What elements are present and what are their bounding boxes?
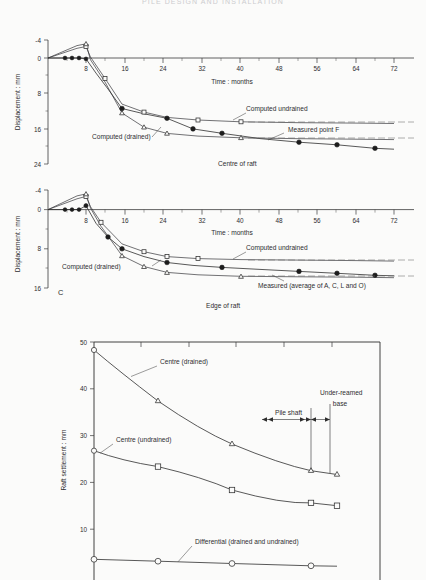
dim-leader-caps xyxy=(311,404,330,420)
marker-open-square xyxy=(239,120,243,124)
marker-filled-circle xyxy=(70,208,74,212)
y-ticks xyxy=(44,40,48,164)
y-axis-title: Displacement : mm xyxy=(14,215,22,272)
marker-open-square xyxy=(142,110,146,114)
arrow-left-icon xyxy=(325,417,330,422)
annotation-computed-undrained: Computed undrained xyxy=(246,244,308,252)
y-tick-16: 16 xyxy=(34,126,42,133)
y-tick-labels: -4 0 8 16 24 xyxy=(34,37,42,168)
marker-open-square xyxy=(142,250,146,254)
marker-open-circle xyxy=(91,556,97,562)
chart-edge-of-raft-svg: -4 0 8 16 8 16 24 32 40 48 56 64 72 Time… xyxy=(0,176,426,316)
leader-measured-point-f xyxy=(268,133,284,140)
y-tick-30: 30 xyxy=(80,432,88,439)
x-tick-56: 56 xyxy=(313,217,321,224)
x-ticks xyxy=(86,58,394,63)
arrow-left-icon xyxy=(262,417,267,422)
y-axis-title: Raft settlement : mm xyxy=(60,429,67,490)
marker-open-circle xyxy=(91,448,96,453)
marker-filled-circle xyxy=(70,56,74,60)
marker-filled-circle xyxy=(165,260,170,265)
annotations: Computed undrained Measured point F Comp… xyxy=(92,105,339,167)
x-tick-56: 56 xyxy=(313,65,321,72)
leader-centre-drained xyxy=(131,366,157,377)
x-tick-40: 40 xyxy=(236,217,244,224)
leader-centre-undrained xyxy=(100,444,113,453)
marker-filled-circle xyxy=(106,235,111,240)
marker-filled-circle xyxy=(63,208,67,212)
leader-differential xyxy=(178,546,192,562)
marker-filled-circle xyxy=(120,247,125,252)
leader-computed-undrained xyxy=(233,113,246,120)
marker-open-circle xyxy=(308,563,314,569)
figure-letter: C xyxy=(58,288,63,297)
y-ticks xyxy=(90,342,94,529)
arrow-right-icon xyxy=(311,417,316,422)
leader-computed-drained xyxy=(152,260,161,266)
x-tick-32: 32 xyxy=(198,217,206,224)
y-tick-0: 0 xyxy=(37,55,41,62)
series-centre-undrained-line xyxy=(94,451,337,506)
x-tick-24: 24 xyxy=(159,65,167,72)
chart-raft-settlement: 50 40 30 20 10 Raft settlement : mm xyxy=(0,330,426,580)
y-tick-m4: -4 xyxy=(35,187,41,194)
marker-filled-circle xyxy=(335,143,340,148)
marker-open-square xyxy=(165,255,169,259)
annotation-differential: Differential (drained and undrained) xyxy=(195,538,299,546)
arrow-left-icon xyxy=(268,417,273,422)
y-ticks xyxy=(44,190,48,288)
y-tick-8: 8 xyxy=(37,245,41,252)
marker-open-square xyxy=(99,220,103,224)
x-tick-48: 48 xyxy=(275,65,283,72)
annotation-measured-average: Measured (average of A, C, L and O) xyxy=(258,282,366,290)
annotation-centre-of-raft: Centre of raft xyxy=(218,160,257,167)
x-minor-ticks xyxy=(67,210,375,213)
marker-filled-circle xyxy=(120,106,125,111)
dimension-labels: Pile shaft Under-reamed base xyxy=(275,389,363,416)
marker-filled-circle xyxy=(63,56,67,60)
marker-open-triangle xyxy=(84,192,89,196)
x-tick-72: 72 xyxy=(390,65,398,72)
y-tick-24: 24 xyxy=(34,161,42,168)
axes-group xyxy=(44,190,414,288)
x-tick-16: 16 xyxy=(121,65,129,72)
annotation-centre-drained: Centre (drained) xyxy=(160,358,208,366)
annotation-pile-shaft: Pile shaft xyxy=(275,409,302,416)
series-markers xyxy=(91,347,340,568)
marker-filled-circle xyxy=(165,116,170,121)
arrow-right-icon xyxy=(306,417,311,422)
series-differential-line xyxy=(94,559,337,566)
annotation-measured-point-f: Measured point F xyxy=(288,126,339,134)
leader-computed-drained xyxy=(152,127,161,137)
top-ticks xyxy=(141,342,332,347)
marker-filled-circle xyxy=(373,273,378,278)
marker-filled-circle xyxy=(297,269,302,274)
annotation-computed-undrained: Computed undrained xyxy=(246,105,308,113)
marker-filled-circle xyxy=(84,204,88,208)
marker-open-square xyxy=(196,257,200,261)
marker-open-triangle xyxy=(120,254,125,258)
marker-filled-circle xyxy=(220,265,225,270)
marker-open-triangle xyxy=(142,125,147,129)
y-tick-m4: -4 xyxy=(35,37,41,44)
y-tick-labels: 50 40 30 20 10 xyxy=(80,339,88,533)
y-tick-50: 50 xyxy=(80,339,88,346)
marker-open-square xyxy=(155,464,160,469)
marker-filled-circle xyxy=(373,146,378,151)
marker-filled-circle xyxy=(335,271,340,276)
marker-open-circle xyxy=(229,561,235,567)
annotation-under-reamed: Under-reamed xyxy=(320,389,363,396)
arrow-right-icon xyxy=(300,417,305,422)
x-tick-72: 72 xyxy=(390,217,398,224)
marker-open-square xyxy=(196,118,200,122)
marker-filled-circle xyxy=(297,140,302,145)
marker-open-square xyxy=(334,503,339,508)
chart-edge-of-raft: -4 0 8 16 8 16 24 32 40 48 56 64 72 Time… xyxy=(0,176,426,316)
marker-filled-circle xyxy=(84,57,88,61)
x-tick-32: 32 xyxy=(198,65,206,72)
x-axis-title: Time : months xyxy=(211,229,253,236)
marker-filled-circle xyxy=(220,131,225,136)
x-ticks xyxy=(86,210,394,215)
x-tick-48: 48 xyxy=(275,217,283,224)
marker-filled-circle xyxy=(77,208,81,212)
